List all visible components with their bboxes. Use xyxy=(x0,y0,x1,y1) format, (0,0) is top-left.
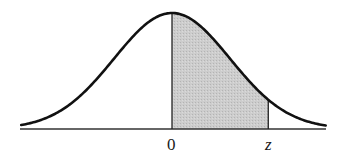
shaded-area-0-to-z xyxy=(172,13,268,129)
tick-label-z: z xyxy=(265,136,272,153)
tick-label-zero: 0 xyxy=(167,136,176,153)
